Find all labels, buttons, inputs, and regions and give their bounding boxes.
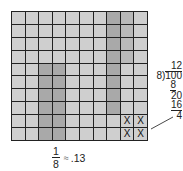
- grid-cell: [12, 115, 25, 127]
- grid-cell: [26, 64, 39, 76]
- grid-cell: [39, 25, 52, 37]
- grid-cell: [53, 89, 66, 101]
- pointer-arrow-icon: [150, 116, 175, 130]
- grid-cell: [80, 102, 93, 114]
- grid-cell: [12, 64, 25, 76]
- grid-cell: [39, 64, 52, 76]
- grid-cell: [39, 89, 52, 101]
- grid-cell: [53, 25, 66, 37]
- grid-cell: [53, 128, 66, 140]
- grid-cell: [66, 115, 79, 127]
- grid-cell: [39, 76, 52, 88]
- grid-cell: [80, 89, 93, 101]
- grid-cell: [53, 38, 66, 50]
- division-setup-line: 8)100: [150, 71, 183, 81]
- grid-cell: [134, 64, 147, 76]
- grid-cell: [134, 51, 147, 63]
- grid-cell: [94, 12, 107, 24]
- fraction: 1 8: [52, 146, 60, 169]
- grid-cell: [94, 25, 107, 37]
- x-mark: X: [137, 116, 144, 126]
- grid-cell: [12, 25, 25, 37]
- grid-cell: [94, 115, 107, 127]
- grid-cell: [12, 51, 25, 63]
- grid-cell: [94, 89, 107, 101]
- grid-cell: [26, 76, 39, 88]
- grid-cell: [80, 76, 93, 88]
- fraction-denominator: 8: [53, 158, 59, 169]
- grid-cell: [66, 128, 79, 140]
- decimal-value: .13: [71, 152, 86, 164]
- grid-cell: [107, 51, 120, 63]
- grid-cell: [121, 64, 134, 76]
- hundred-grid: XXXX: [11, 11, 148, 141]
- grid-cell: [134, 12, 147, 24]
- grid-cell: [53, 64, 66, 76]
- grid-cell: [94, 38, 107, 50]
- grid-cell: [134, 102, 147, 114]
- grid-cell: X: [121, 115, 134, 127]
- grid-cell: [39, 12, 52, 24]
- grid-cell: [94, 102, 107, 114]
- grid-cell: [66, 102, 79, 114]
- grid-cell: [121, 12, 134, 24]
- grid-cell: [107, 102, 120, 114]
- grid-cell: [107, 128, 120, 140]
- fraction-caption: 1 8 ≈ .13: [52, 146, 85, 169]
- grid-cell: [107, 89, 120, 101]
- grid-cell: [80, 64, 93, 76]
- grid-cell: [12, 128, 25, 140]
- grid-cell: [107, 25, 120, 37]
- grid-cell: [94, 76, 107, 88]
- grid-cell: [26, 128, 39, 140]
- grid-cell: [53, 102, 66, 114]
- grid-cell: [26, 51, 39, 63]
- grid-cell: [107, 76, 120, 88]
- grid-cell: [53, 12, 66, 24]
- grid-cell: [134, 89, 147, 101]
- grid-cell: [12, 102, 25, 114]
- grid-cell: [80, 115, 93, 127]
- remainder: 4: [176, 110, 182, 121]
- grid-cell: [39, 115, 52, 127]
- grid-cell: [39, 102, 52, 114]
- grid-cell: [26, 102, 39, 114]
- grid-cell: [26, 38, 39, 50]
- grid-cell: [134, 25, 147, 37]
- grid-cell: [66, 51, 79, 63]
- grid-cell: X: [121, 128, 134, 140]
- grid-cell: [94, 128, 107, 140]
- grid-cell: [80, 25, 93, 37]
- grid-cell: [12, 38, 25, 50]
- grid-cell: [12, 12, 25, 24]
- grid-cell: [12, 76, 25, 88]
- grid-cell: [66, 25, 79, 37]
- grid-cell: [121, 51, 134, 63]
- grid-cell: [39, 38, 52, 50]
- grid-cell: [26, 12, 39, 24]
- grid-cell: [134, 76, 147, 88]
- grid-cell: [12, 89, 25, 101]
- grid-cell: [39, 128, 52, 140]
- grid-cell: [26, 115, 39, 127]
- x-mark: X: [137, 129, 144, 139]
- grid-cell: [80, 12, 93, 24]
- grid-cell: [94, 51, 107, 63]
- grid-cell: X: [134, 128, 147, 140]
- grid-cell: [107, 38, 120, 50]
- grid-cell: [121, 102, 134, 114]
- grid-cell: [121, 38, 134, 50]
- approx-symbol: ≈: [64, 153, 69, 163]
- grid-cell: [94, 64, 107, 76]
- grid-cell: [80, 51, 93, 63]
- grid-cell: [53, 76, 66, 88]
- long-division: 12 8)100 8 20 16 4: [150, 61, 183, 120]
- grid-cell: [80, 38, 93, 50]
- grid-cell: [26, 89, 39, 101]
- grid-cell: [66, 89, 79, 101]
- grid-cell: [107, 12, 120, 24]
- grid-cell: [80, 128, 93, 140]
- x-mark: X: [124, 129, 131, 139]
- grid-cell: [66, 12, 79, 24]
- grid-cell: [121, 25, 134, 37]
